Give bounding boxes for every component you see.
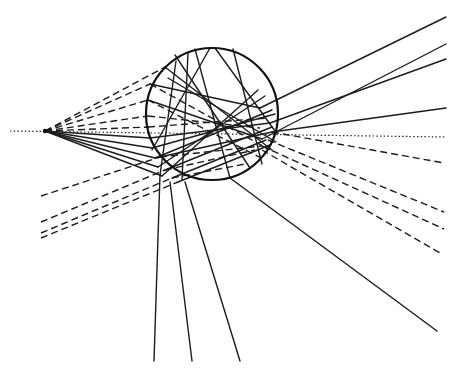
ray-solid: [154, 175, 160, 361]
exit-dashed-rays: [262, 132, 444, 253]
ray-dashed: [41, 157, 160, 196]
ray-solid: [215, 48, 275, 131]
ray-solid: [45, 131, 152, 148]
ray-dashed: [45, 84, 150, 131]
ray-solid: [260, 17, 446, 108]
ray-solid: [185, 182, 240, 361]
ray-dashed: [41, 182, 178, 238]
ray-solid: [230, 178, 437, 331]
ray-solid: [170, 182, 192, 361]
point-source: [43, 129, 47, 133]
parallel-dashed-rays: [41, 157, 178, 238]
ray-diagram: [0, 0, 458, 374]
incident-solid-rays: [45, 131, 162, 176]
ray-dashed: [268, 140, 444, 212]
ray-dashed: [41, 170, 165, 222]
ray-solid: [270, 59, 446, 123]
ray-dashed: [262, 150, 440, 253]
ray-solid: [262, 44, 446, 139]
ray-dashed: [45, 100, 148, 131]
ray-dashed: [41, 178, 172, 233]
ray-solid: [45, 131, 158, 167]
